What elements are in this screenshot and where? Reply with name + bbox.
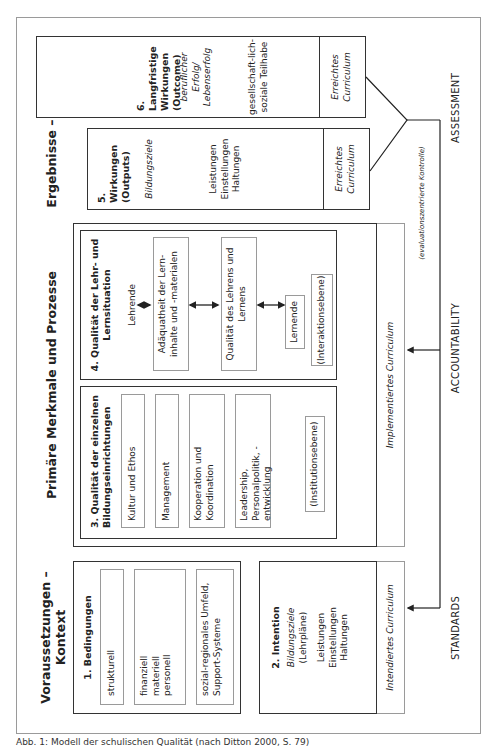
assessment-label: ASSESSMENT xyxy=(450,48,461,168)
figure-caption: Abb. 1: Modell der schulischen Qualität … xyxy=(16,737,309,747)
feedback-arrows xyxy=(0,0,492,748)
accountability-label: ACCOUNTABILITY xyxy=(450,278,461,418)
evaluation-note: (evaluationszentrierte Kontrolle) xyxy=(418,118,426,288)
standards-label: STANDARDS xyxy=(450,568,461,688)
diagram-rotated: Voraussetzungen – Kontext Primäre Merkma… xyxy=(0,0,492,748)
